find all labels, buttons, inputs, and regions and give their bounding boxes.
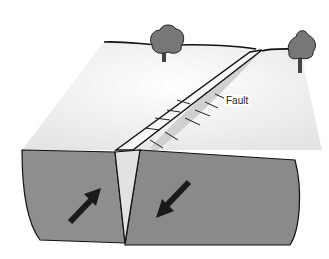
fault-diagram: Fault xyxy=(0,0,329,259)
right-block xyxy=(125,150,300,245)
fault-illustration xyxy=(0,0,329,259)
fault-label: Fault xyxy=(224,95,250,106)
left-block xyxy=(22,150,125,243)
